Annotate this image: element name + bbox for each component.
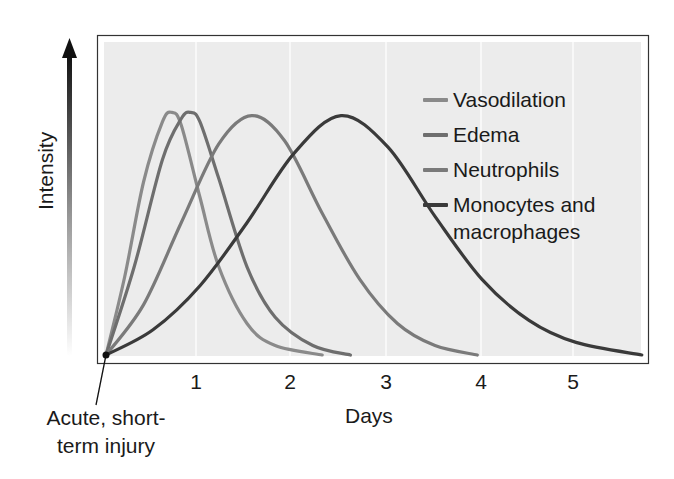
legend-label-line2: macrophages [453, 220, 580, 243]
legend-item-edema: Edema [423, 121, 595, 156]
x-tick-5: 5 [558, 370, 588, 394]
annotation-line1: Acute, short- [46, 406, 165, 429]
x-axis-label: Days [345, 404, 393, 428]
legend-swatch [423, 133, 448, 137]
annotation-line2: term injury [57, 434, 155, 457]
legend-swatch [423, 168, 448, 172]
legend-swatch [423, 203, 448, 207]
injury-annotation: Acute, short- term injury [36, 404, 176, 460]
intensity-arrow-icon [62, 38, 77, 356]
x-tick-3: 3 [371, 370, 401, 394]
legend-label-line1: Monocytes and [453, 193, 595, 216]
legend-swatch [423, 98, 448, 102]
legend-label: Vasodilation [453, 86, 566, 113]
x-tick-4: 4 [466, 370, 496, 394]
legend-label: Neutrophils [453, 156, 559, 183]
legend-label: Edema [453, 121, 520, 148]
legend: Vasodilation Edema Neutrophils Monocytes… [423, 86, 595, 251]
legend-label: Monocytes and macrophages [453, 191, 595, 245]
x-tick-2: 2 [275, 370, 305, 394]
x-tick-1: 1 [181, 370, 211, 394]
legend-item-vasodilation: Vasodilation [423, 86, 595, 121]
y-axis-label: Intensity [34, 132, 58, 210]
legend-item-monocytes: Monocytes and macrophages [423, 191, 595, 251]
legend-item-neutrophils: Neutrophils [423, 156, 595, 191]
